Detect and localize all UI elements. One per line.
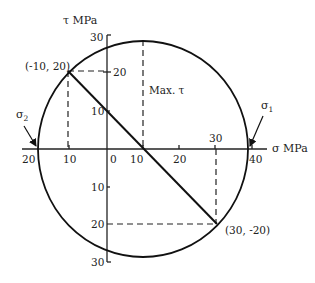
tau-tick-neg30: 30 <box>91 256 104 268</box>
sigma1-arrow-icon <box>250 116 263 146</box>
sigma2-label: σ2 <box>16 108 29 123</box>
sigma-tick-neg10: 10 <box>63 153 76 165</box>
tau-tick-10: 10 <box>91 105 104 117</box>
sigma2-arrow-icon <box>24 126 36 146</box>
tau-tick-neg10: 10 <box>91 181 104 193</box>
sigma-tick-20: 20 <box>173 153 186 165</box>
sigma-tick-40: 40 <box>249 153 262 165</box>
tau-axis-label: τ MPa <box>63 14 98 27</box>
tau-tick-30: 30 <box>90 31 103 43</box>
sigma-tick-0: 0 <box>110 153 117 165</box>
sigma-axis-label: σ MPa <box>272 142 308 155</box>
max-tau-label: Max. τ <box>149 84 185 96</box>
construction-lines <box>68 40 216 224</box>
sigma-tick-neg20: 20 <box>22 153 35 165</box>
mohr-circle-diagram: τ MPa σ MPa 20 10 0 10 20 30 40 30 20 10… <box>0 0 315 283</box>
sigma-tick-10: 10 <box>130 153 143 165</box>
point-a-label: (-10, 20) <box>25 60 70 72</box>
sigma-tick-30: 30 <box>209 132 222 144</box>
point-b-label: (30, -20) <box>225 224 270 236</box>
sigma1-label: σ1 <box>261 99 273 114</box>
tau-tick-neg20: 20 <box>91 218 104 230</box>
tau-tick-20: 20 <box>113 66 126 78</box>
